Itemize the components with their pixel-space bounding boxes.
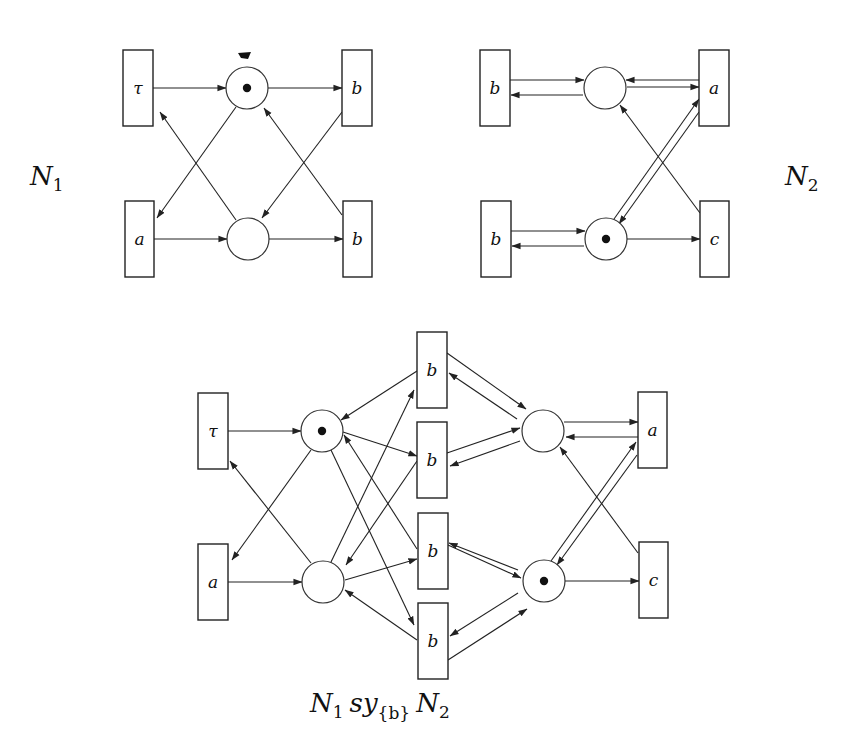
arc-arrow bbox=[560, 447, 638, 553]
place-n2-p-bot bbox=[585, 218, 627, 260]
transition-s-tau: τ bbox=[198, 393, 228, 469]
net-label-n1-sy-n2: N1sy{b}N2 bbox=[309, 688, 450, 723]
arc-arrow bbox=[346, 461, 417, 565]
place-n1-p-bot bbox=[227, 218, 269, 260]
transition-n1-tau: τ bbox=[123, 50, 153, 126]
transition-label: a bbox=[208, 572, 218, 592]
arc-arrow bbox=[620, 105, 700, 213]
nodes-layer: τbabbabcτabbbbac bbox=[123, 50, 729, 679]
transition-n1-b-top: b bbox=[342, 50, 372, 126]
transition-label: b bbox=[352, 78, 363, 98]
arc-arrow bbox=[450, 593, 518, 636]
transition-label: b bbox=[428, 631, 439, 651]
transition-label: b bbox=[428, 541, 439, 561]
arc-arrow bbox=[341, 371, 417, 420]
arc-arrow bbox=[450, 441, 520, 466]
token-icon bbox=[540, 577, 548, 585]
transition-label: c bbox=[710, 229, 720, 249]
transition-n1-b-bot: b bbox=[343, 201, 372, 277]
arc-arrow bbox=[262, 112, 342, 218]
place-s-p-lt bbox=[301, 410, 343, 452]
arc-arrow bbox=[343, 432, 417, 456]
transition-s-c: c bbox=[639, 542, 668, 618]
net-label-n2: N2 bbox=[784, 161, 819, 195]
transition-label: a bbox=[134, 229, 144, 249]
transition-s-a-left: a bbox=[198, 544, 228, 620]
token-icon bbox=[243, 84, 251, 92]
transition-label: τ bbox=[133, 78, 143, 98]
arc-arrow bbox=[449, 543, 518, 570]
transition-label: a bbox=[709, 78, 719, 98]
arc-arrow bbox=[557, 455, 637, 565]
transition-s-b3: b bbox=[418, 513, 448, 589]
transition-label: b bbox=[490, 78, 501, 98]
petri-net-diagram: τbabbabcτabbbbac N1N2N1sy{b}N2 bbox=[0, 0, 852, 745]
transition-n2-a: a bbox=[699, 50, 729, 126]
arc-arrow bbox=[345, 559, 417, 580]
transition-label: b bbox=[352, 229, 363, 249]
place-s-p-rt bbox=[522, 410, 564, 452]
arc-arrow bbox=[448, 609, 527, 660]
arc-arrow bbox=[551, 442, 636, 561]
transition-label: b bbox=[491, 229, 502, 249]
transition-label: b bbox=[427, 360, 438, 380]
token-icon bbox=[318, 427, 326, 435]
net-n1: τbab bbox=[123, 50, 372, 277]
arc-arrow bbox=[160, 112, 236, 220]
arc-arrow bbox=[230, 461, 311, 563]
arc-arrow bbox=[232, 450, 311, 560]
transition-label: τ bbox=[208, 421, 218, 441]
place-n2-p-top bbox=[584, 67, 626, 109]
transition-n1-a: a bbox=[125, 201, 154, 277]
transition-n2-b-top: b bbox=[480, 50, 510, 126]
transition-s-b4: b bbox=[418, 603, 448, 679]
transition-s-b2: b bbox=[417, 422, 447, 498]
transition-s-b1: b bbox=[417, 332, 447, 408]
net-n1-sy-n2: τabbbbac bbox=[198, 332, 668, 679]
arc-arrow bbox=[448, 545, 521, 578]
arc-arrow bbox=[345, 590, 417, 640]
arc-arrow bbox=[614, 99, 699, 219]
arc-arrow bbox=[619, 112, 699, 224]
net-n2: babc bbox=[480, 50, 729, 277]
transition-label: c bbox=[649, 570, 659, 590]
place-s-p-rb bbox=[523, 560, 565, 602]
token-icon bbox=[602, 235, 610, 243]
ink-blot bbox=[238, 52, 251, 59]
arc-arrow bbox=[447, 428, 520, 453]
transition-n2-c: c bbox=[700, 201, 729, 277]
transition-label: b bbox=[427, 450, 438, 470]
transition-s-a-right: a bbox=[638, 392, 667, 468]
transition-label: a bbox=[647, 420, 657, 440]
transition-n2-b-bot: b bbox=[481, 201, 511, 277]
place-n1-p-top bbox=[226, 67, 268, 109]
arc-arrow bbox=[447, 353, 526, 409]
net-label-n1: N1 bbox=[29, 161, 64, 195]
place-s-p-lb bbox=[302, 561, 344, 603]
